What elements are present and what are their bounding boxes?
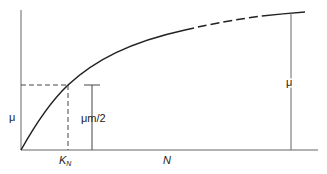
half-max-label: μm/2	[81, 112, 106, 124]
growth-curve	[21, 30, 185, 150]
growth-curve-asymptote-segment	[262, 12, 305, 16]
x-axis-label: N	[163, 154, 171, 166]
monod-diagram: μ μm/2 μ N KN	[0, 0, 327, 174]
max-rate-label: μ	[286, 76, 292, 88]
growth-curve-dashed-segment	[185, 16, 262, 30]
kn-label: KN	[59, 154, 72, 167]
y-axis-label: μ	[9, 111, 15, 123]
